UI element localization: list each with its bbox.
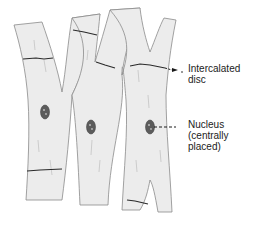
nucleus-right	[146, 120, 155, 134]
cardiac-muscle-diagram	[0, 0, 254, 225]
label-line: Intercalated	[188, 63, 252, 74]
label-line: (centrally	[188, 130, 252, 141]
label-line: disc	[188, 74, 252, 85]
label-intercalated-disc: Intercalated disc	[188, 63, 252, 85]
label-line: Nucleus	[188, 119, 252, 130]
label-line: placed)	[188, 141, 252, 152]
label-nucleus: Nucleus (centrally placed)	[188, 119, 252, 152]
nucleus-middle	[87, 120, 96, 134]
arrowhead-icon	[172, 68, 178, 72]
nucleus-left	[41, 105, 50, 119]
